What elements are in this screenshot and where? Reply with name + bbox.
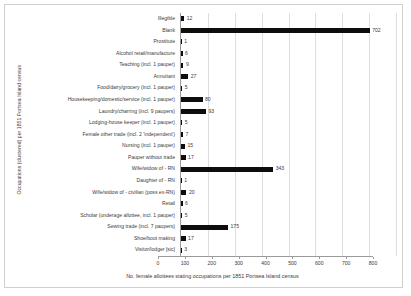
category-row: Sewing trade (incl. 7 paupers)	[27, 221, 178, 233]
y-axis-title-text: Occupations (clustered) per 1851 Portsea…	[16, 65, 22, 195]
bar-value-label: 3	[184, 244, 187, 256]
bar	[181, 167, 273, 172]
bar	[181, 97, 203, 102]
bar-value-label: 17	[188, 233, 194, 245]
bar-value-label: 15	[188, 140, 194, 152]
category-label: Illegible	[158, 13, 175, 25]
tick-mark	[319, 257, 320, 259]
plot-area: 12702169275809357151734312065175173	[180, 13, 395, 256]
bar-value-label: 6	[185, 198, 188, 210]
bar	[181, 213, 182, 218]
tick-mark	[373, 257, 374, 259]
bar-value-label: 9	[186, 59, 189, 71]
bar	[181, 28, 370, 33]
bar-row: 1	[181, 175, 395, 187]
tick-mark	[292, 257, 293, 259]
bar-value-label: 1	[184, 175, 187, 187]
bar-row: 17	[181, 233, 395, 245]
bar	[181, 109, 206, 114]
x-tick-label: 400	[261, 260, 270, 266]
x-tick-label: 300	[234, 260, 243, 266]
category-row: Lodging-house keeper (incl. 1 pauper)	[27, 117, 178, 129]
category-label: Female other trade (incl. 2 'independent…	[82, 129, 175, 141]
category-label: Daughter of - RN	[136, 175, 175, 187]
bar-value-label: 6	[185, 48, 188, 60]
bar-row: 5	[181, 117, 395, 129]
bar	[181, 120, 182, 125]
bar-value-label: 20	[189, 187, 195, 199]
bar	[181, 225, 228, 230]
bar-value-label: 80	[205, 94, 211, 106]
bar-value-label: 1	[184, 36, 187, 48]
category-label: Retail	[162, 198, 175, 210]
bar-value-label: 702	[372, 25, 381, 37]
x-tick-label: 800	[369, 260, 378, 266]
bar-row: 343	[181, 163, 395, 175]
category-row: Daughter of - RN	[27, 175, 178, 187]
category-label: Housekeeping/domestic/service (incl. 1 p…	[68, 94, 175, 106]
bar-row: 702	[181, 25, 395, 37]
category-label: Sewing trade (incl. 7 paupers)	[107, 221, 175, 233]
category-row: Prostitute	[27, 36, 178, 48]
x-tick-label: 600	[315, 260, 324, 266]
bar-row: 12	[181, 13, 395, 25]
category-label: Nursing (incl. 1 pauper)	[122, 140, 175, 152]
category-row: Wife/widow of - RN	[27, 163, 178, 175]
bar	[181, 63, 183, 68]
category-label: Shoe/boot making	[134, 233, 175, 245]
x-tick-label: 100	[181, 260, 190, 266]
bar-value-label: 7	[185, 129, 188, 141]
category-row: Annuitant	[27, 71, 178, 83]
bar-row: 3	[181, 244, 395, 256]
bar-row: 7	[181, 129, 395, 141]
bar-row: 15	[181, 140, 395, 152]
category-label: Laundry/charring (incl. 9 paupers)	[99, 106, 175, 118]
category-label: Annuitant	[153, 71, 175, 83]
bar-value-label: 12	[187, 13, 193, 25]
gridline	[396, 13, 397, 256]
bar-row: 27	[181, 71, 395, 83]
bar-row: 5	[181, 82, 395, 94]
category-label: Food/dairy/grocery (incl. 1 pauper)	[97, 82, 175, 94]
bar	[181, 16, 184, 21]
category-row: Pauper without trade	[27, 152, 178, 164]
bar	[181, 39, 182, 44]
category-label: Pauper without trade	[128, 152, 175, 164]
bar-row: 9	[181, 59, 395, 71]
tick-mark	[346, 257, 347, 259]
bar	[181, 201, 183, 206]
bar-value-label: 175	[231, 221, 240, 233]
category-row: Female other trade (incl. 2 'independent…	[27, 129, 178, 141]
bar-row: 175	[181, 221, 395, 233]
bar-row: 6	[181, 48, 395, 60]
y-axis-title: Occupations (clustered) per 1851 Portsea…	[11, 5, 27, 255]
bar-row: 80	[181, 94, 395, 106]
bar-value-label: 93	[208, 106, 214, 118]
category-label: Blank	[162, 25, 175, 37]
category-row: Scholar (underage allottee, incl. 1 paup…	[27, 210, 178, 222]
bar	[181, 190, 186, 195]
category-row: Laundry/charring (incl. 9 paupers)	[27, 106, 178, 118]
tick-mark	[212, 257, 213, 259]
tick-mark	[266, 257, 267, 259]
category-row: Food/dairy/grocery (incl. 1 pauper)	[27, 82, 178, 94]
bar	[181, 155, 186, 160]
category-row: Wife/widow of - civilian (poss ex-RN)	[27, 187, 178, 199]
bar-value-label: 17	[188, 152, 194, 164]
x-tick-label: 0	[157, 260, 160, 266]
bar-value-label: 343	[276, 163, 285, 175]
category-label: Scholar (underage allottee, incl. 1 paup…	[80, 210, 175, 222]
tick-mark	[185, 257, 186, 259]
category-label: Wife/widow of - civilian (poss ex-RN)	[92, 187, 175, 199]
bar-row: 17	[181, 152, 395, 164]
tick-mark	[239, 257, 240, 259]
category-label-column: IllegibleBlankProstituteAlcohol retail/m…	[27, 13, 178, 256]
bar-row: 20	[181, 187, 395, 199]
bar-value-label: 5	[185, 117, 188, 129]
bar	[181, 51, 183, 56]
category-row: Teaching (incl. 1 pauper)	[27, 59, 178, 71]
bar	[181, 248, 182, 253]
category-row: Shoe/boot making	[27, 233, 178, 245]
plot-wrapper: IllegibleBlankProstituteAlcohol retail/m…	[27, 13, 398, 256]
x-tick-label: 700	[342, 260, 351, 266]
